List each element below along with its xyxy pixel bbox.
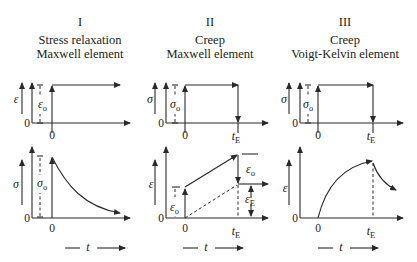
relaxation-curve bbox=[52, 157, 120, 213]
panel-3-top-plot: σ 0 σo 0 tE bbox=[281, 83, 403, 145]
panel-1: I Stress relaxation Maxwell element ε 0 … bbox=[13, 15, 130, 254]
drop-label: εo bbox=[246, 162, 255, 178]
origin-label: 0 bbox=[158, 212, 164, 224]
origin-label: 0 bbox=[292, 117, 298, 129]
y-label: σ bbox=[13, 177, 20, 191]
panel-2-numeral: II bbox=[206, 15, 214, 29]
panel-1-title-line2: Maxwell element bbox=[36, 47, 124, 61]
panel-2: II Creep Maxwell element σ 0 σo 0 tE ε bbox=[147, 15, 268, 254]
panel-3-title-line2: Voigt-Kelvin element bbox=[291, 47, 399, 61]
panel-3-title-line1: Creep bbox=[330, 33, 360, 47]
y-label: σ bbox=[147, 92, 154, 106]
x-tick: 0 bbox=[49, 222, 55, 234]
x-tick: 0 bbox=[315, 129, 321, 141]
origin-label: 0 bbox=[292, 212, 298, 224]
panel-1-bottom-plot: σ 0 σo 0 t bbox=[13, 147, 130, 254]
panel-2-title-line2: Maxwell element bbox=[166, 47, 254, 61]
panel-3: III Creep Voigt-Kelvin element σ 0 σo 0 … bbox=[281, 15, 403, 254]
x-label: t bbox=[339, 240, 343, 254]
creep-curve bbox=[318, 161, 372, 218]
y-label: ε bbox=[283, 181, 288, 195]
panel-1-title-line1: Stress relaxation bbox=[39, 33, 123, 47]
creep-line bbox=[185, 155, 237, 187]
viscous-flow-dash bbox=[185, 185, 237, 218]
panel-3-bottom-plot: ε 0 0 tE t bbox=[283, 147, 403, 254]
y-label: ε bbox=[149, 177, 154, 191]
panel-2-top-plot: σ 0 σo 0 tE bbox=[147, 83, 268, 145]
x-tick: 0 bbox=[182, 222, 188, 234]
y-label: σ bbox=[281, 92, 288, 106]
recovery-curve bbox=[373, 163, 396, 190]
viscoelastic-diagram: I Stress relaxation Maxwell element ε 0 … bbox=[0, 0, 417, 262]
x-label: t bbox=[204, 240, 208, 254]
origin-label: 0 bbox=[158, 117, 164, 129]
residual-label: εE bbox=[245, 192, 255, 208]
x-tick-end: tE bbox=[232, 224, 241, 240]
origin-label: 0 bbox=[24, 117, 30, 129]
panel-1-numeral: I bbox=[78, 15, 82, 29]
x-tick-end: tE bbox=[367, 129, 376, 145]
x-tick-end: tE bbox=[367, 224, 376, 240]
panel-1-top-plot: ε 0 εo 0 bbox=[14, 83, 130, 141]
x-tick-end: tE bbox=[232, 129, 241, 145]
panel-2-title-line1: Creep bbox=[195, 33, 225, 47]
x-label: t bbox=[86, 240, 90, 254]
y-label: ε bbox=[14, 92, 19, 106]
x-tick: 0 bbox=[315, 222, 321, 234]
panel-2-bottom-plot: ε 0 εo εo εE 0 tE t bbox=[149, 147, 268, 254]
x-tick: 0 bbox=[182, 129, 188, 141]
panel-3-numeral: III bbox=[339, 15, 352, 29]
x-tick: 0 bbox=[49, 129, 55, 141]
origin-label: 0 bbox=[24, 212, 30, 224]
